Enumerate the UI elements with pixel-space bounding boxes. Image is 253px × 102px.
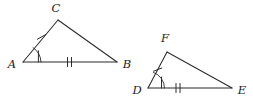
geometry-diagram-svg: A B C D E F <box>0 0 253 102</box>
vertex-label-d: D <box>131 83 141 97</box>
triangle-def: D E F <box>131 31 246 97</box>
side-fe <box>167 52 232 88</box>
geometry-figure: A B C D E F <box>0 0 253 102</box>
vertex-label-f: F <box>160 31 170 45</box>
vertex-label-a: A <box>7 57 16 71</box>
vertex-label-b: B <box>122 57 131 71</box>
vertex-label-c: C <box>52 1 61 15</box>
vertex-label-e: E <box>237 83 247 97</box>
side-ac <box>23 20 58 62</box>
angle-mark-a <box>33 48 41 62</box>
side-cb <box>58 20 117 62</box>
triangle-abc: A B C <box>7 1 131 71</box>
